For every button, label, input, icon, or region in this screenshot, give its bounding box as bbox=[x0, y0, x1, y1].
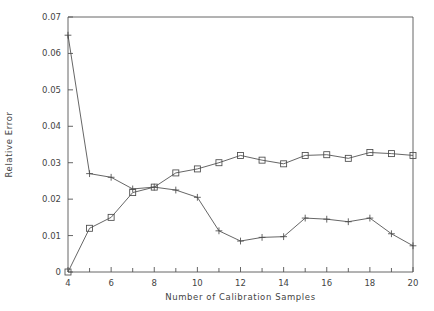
data-point-plus-series-16 bbox=[410, 242, 417, 249]
y-tick-label-0: 0 bbox=[56, 267, 61, 277]
y-axis-title: Relative Error bbox=[4, 111, 14, 177]
x-tick-label-1: 6 bbox=[108, 278, 113, 288]
y-tick-label-1: 0.01 bbox=[42, 231, 61, 241]
relative-error-line-chart: 00.010.020.030.040.050.060.0746810121416… bbox=[0, 0, 434, 311]
plot-frame bbox=[68, 17, 413, 272]
x-tick-label-0: 4 bbox=[65, 278, 70, 288]
data-point-plus-series-9 bbox=[259, 234, 266, 241]
data-point-plus-series-7 bbox=[216, 227, 223, 234]
data-point-plus-series-5 bbox=[172, 187, 179, 194]
y-tick-label-6: 0.06 bbox=[42, 48, 61, 58]
data-point-plus-series-12 bbox=[323, 216, 330, 223]
series-line-square-series bbox=[68, 153, 413, 272]
x-tick-label-3: 10 bbox=[192, 278, 203, 288]
data-point-plus-series-14 bbox=[366, 215, 373, 222]
x-tick-label-2: 8 bbox=[152, 278, 157, 288]
data-point-plus-series-13 bbox=[345, 218, 352, 225]
x-tick-label-7: 18 bbox=[364, 278, 375, 288]
series-line-plus-series bbox=[68, 35, 413, 246]
y-tick-label-4: 0.04 bbox=[42, 121, 61, 131]
data-point-plus-series-8 bbox=[237, 238, 244, 245]
x-axis-title: Number of Calibration Samples bbox=[165, 292, 315, 302]
data-point-plus-series-3 bbox=[129, 186, 136, 193]
y-tick-label-5: 0.05 bbox=[42, 85, 61, 95]
y-tick-label-7: 0.07 bbox=[42, 12, 61, 22]
x-tick-label-6: 16 bbox=[321, 278, 332, 288]
data-point-plus-series-15 bbox=[388, 230, 395, 237]
data-point-plus-series-2 bbox=[108, 174, 115, 181]
y-tick-label-3: 0.03 bbox=[42, 158, 61, 168]
chart-canvas: 00.010.020.030.040.050.060.0746810121416… bbox=[0, 0, 434, 311]
data-point-plus-series-6 bbox=[194, 194, 201, 201]
data-point-plus-series-0 bbox=[65, 32, 72, 39]
x-tick-label-4: 12 bbox=[235, 278, 246, 288]
x-tick-label-5: 14 bbox=[278, 278, 289, 288]
y-tick-label-2: 0.02 bbox=[42, 194, 61, 204]
x-tick-label-8: 20 bbox=[408, 278, 419, 288]
data-point-plus-series-1 bbox=[86, 170, 93, 177]
